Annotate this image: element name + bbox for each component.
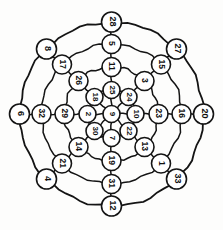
node-circle-27[interactable] <box>167 39 187 59</box>
node-circle-24[interactable] <box>120 89 137 106</box>
node-circle-7[interactable] <box>103 130 120 147</box>
node-circle-1[interactable] <box>152 154 171 173</box>
node-circle-14[interactable] <box>69 138 88 157</box>
node-circle-13[interactable] <box>135 138 154 157</box>
node-circle-20[interactable] <box>194 104 214 124</box>
node-circle-33[interactable] <box>167 169 187 189</box>
node-circle-31[interactable] <box>102 175 121 194</box>
node-circle-25[interactable] <box>103 82 120 99</box>
node-circle-15[interactable] <box>152 55 171 74</box>
node-circle-23[interactable] <box>149 105 168 124</box>
node-circle-30[interactable] <box>86 123 103 140</box>
node-circle-8[interactable] <box>37 39 57 59</box>
node-circle-17[interactable] <box>53 55 72 74</box>
node-circle-10[interactable] <box>127 106 144 123</box>
node-circle-11[interactable] <box>102 58 121 77</box>
node-circle-28[interactable] <box>102 12 122 32</box>
node-layer <box>10 12 214 216</box>
node-circle-18[interactable] <box>86 89 103 106</box>
node-circle-22[interactable] <box>120 123 137 140</box>
node-circle-4[interactable] <box>37 169 57 189</box>
node-circle-29[interactable] <box>55 105 74 124</box>
node-circle-5[interactable] <box>102 35 121 54</box>
node-circle-19[interactable] <box>102 152 121 171</box>
node-circle-12[interactable] <box>102 196 122 216</box>
node-circle-16[interactable] <box>172 105 191 124</box>
node-circle-6[interactable] <box>10 104 30 124</box>
spider-web-figure: 9252410227302181132313191429265151613121… <box>0 0 223 230</box>
node-circle-32[interactable] <box>32 105 51 124</box>
node-circle-2[interactable] <box>79 106 96 123</box>
node-circle-26[interactable] <box>69 72 88 91</box>
node-circle-21[interactable] <box>53 154 72 173</box>
web-graph-canvas <box>0 0 223 230</box>
node-circle-3[interactable] <box>135 72 154 91</box>
node-circle-9[interactable] <box>103 106 120 123</box>
